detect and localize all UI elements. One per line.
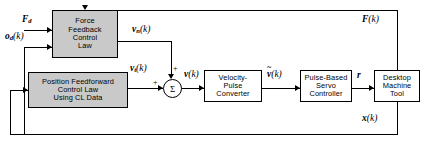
label-force-measured: F(k) xyxy=(362,14,379,24)
label-velocity-pulse-command: ~v(k) xyxy=(267,69,282,79)
block-force-feedback-control-law: Force Feedback Control Law xyxy=(52,10,118,58)
label-velocity-tangential: vt(k) xyxy=(130,63,147,73)
label-r-base: r xyxy=(357,70,361,80)
label-vt-arg: (k) xyxy=(136,63,147,73)
label-velocity-command: v(k) xyxy=(184,69,199,79)
wire-fk-up xyxy=(397,10,398,70)
summing-junction: Σ xyxy=(163,79,182,98)
label-vn-arg: (k) xyxy=(140,24,151,34)
label-offset-desired: od(k) xyxy=(5,31,24,41)
sum-input-sign-top: + xyxy=(173,64,178,73)
label-force-desired: Fd xyxy=(22,14,32,24)
label-vtilde-wrap: ~v xyxy=(267,69,271,79)
label-position-measured: x(k) xyxy=(362,113,377,123)
label-vk-arg: (k) xyxy=(188,69,199,79)
wire-vn-down-to-sum xyxy=(171,41,172,78)
block-position-feedforward-control-law: Position Feedforward Control Law Using C… xyxy=(28,72,128,108)
wire-xk-into-od-riser xyxy=(24,119,25,135)
block-desktop-machine-tool: Desktop Machine Tool xyxy=(374,70,420,102)
wire-xk-down xyxy=(397,102,398,135)
block-diagram-canvas: Force Feedback Control Law Position Feed… xyxy=(0,0,431,143)
sigma-symbol: Σ xyxy=(170,84,175,94)
block-pulse-based-servo-controller: Pulse-Based Servo Controller xyxy=(300,70,352,102)
label-vtilde-accent: ~ xyxy=(267,64,271,72)
label-xk-arg: (k) xyxy=(367,113,378,123)
wire-fk-top-bus xyxy=(85,10,397,11)
label-vtilde-arg: (k) xyxy=(271,69,282,79)
label-pulse-rate: r xyxy=(357,70,361,80)
label-fk-arg: (k) xyxy=(368,14,379,24)
wire-vn-horizontal xyxy=(118,41,172,42)
label-velocity-normal: vn(k) xyxy=(132,24,150,34)
label-od-arg: (k) xyxy=(13,31,24,41)
wire-od-riser xyxy=(24,47,25,119)
block-velocity-pulse-converter: Velocity- Pulse Converter xyxy=(204,70,262,102)
sum-input-sign-left: + xyxy=(153,78,158,87)
label-fd-sub: d xyxy=(28,17,31,24)
wire-xk-bottom-bus xyxy=(10,134,397,135)
wire-xk-left-riser xyxy=(10,90,11,134)
